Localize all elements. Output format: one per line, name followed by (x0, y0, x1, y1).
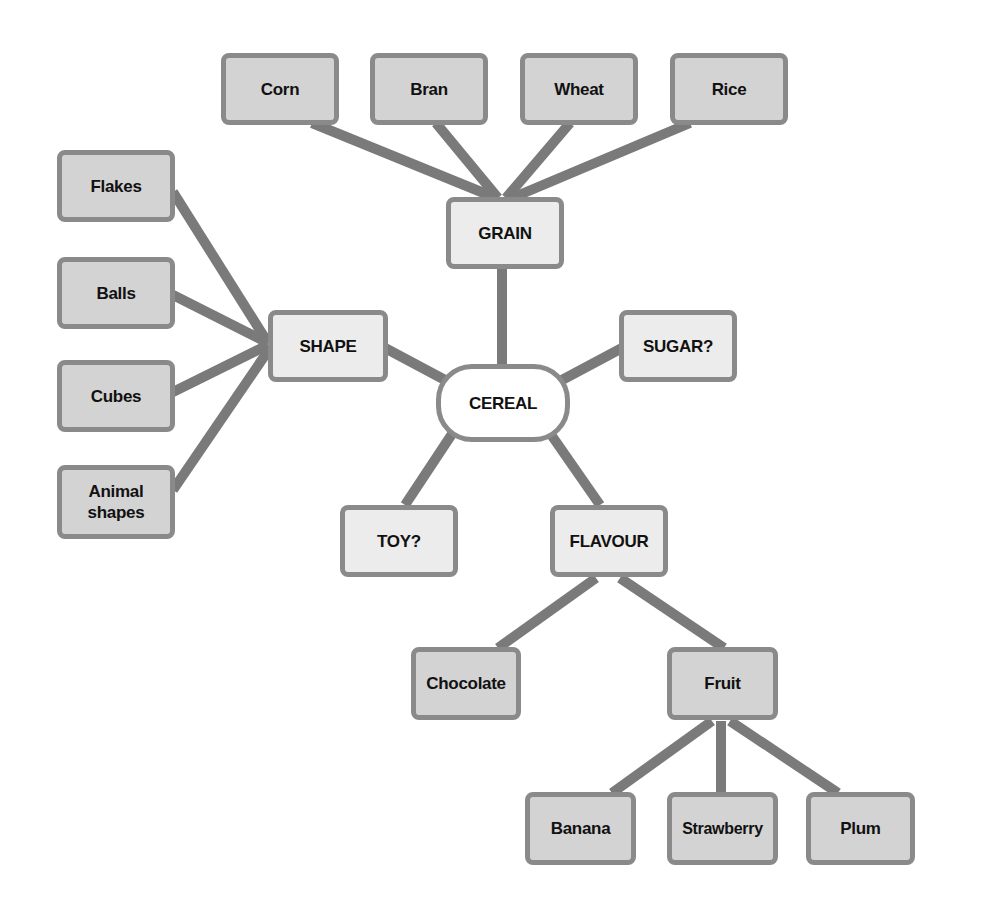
node-label: CEREAL (469, 393, 537, 414)
node-corn: Corn (221, 53, 339, 125)
node-label: Flakes (90, 176, 141, 197)
node-bran: Bran (370, 53, 488, 125)
node-chocolate: Chocolate (411, 647, 521, 720)
node-flavour: FLAVOUR (550, 505, 668, 577)
edge-fruit-banana (612, 721, 712, 793)
node-wheat: Wheat (520, 53, 638, 125)
node-label: Fruit (704, 673, 740, 694)
node-label: GRAIN (478, 223, 531, 244)
edge-fruit-plum (730, 721, 838, 793)
edge-cereal-toy (405, 434, 452, 505)
node-plum: Plum (806, 792, 915, 865)
edge-cereal-shape (385, 348, 445, 380)
node-label: Chocolate (426, 673, 505, 694)
node-rice: Rice (670, 53, 788, 125)
edge-flavour-chocolate (498, 578, 596, 648)
node-label: Bran (410, 79, 448, 100)
node-balls: Balls (57, 257, 175, 329)
edge-cereal-flavour (552, 436, 600, 505)
node-label: Strawberry (682, 818, 763, 839)
connector-lines (0, 0, 995, 909)
node-label: SUGAR? (643, 336, 713, 357)
node-label: Cubes (91, 386, 141, 407)
node-label: Plum (840, 818, 880, 839)
node-label: TOY? (377, 531, 421, 552)
node-label: SHAPE (299, 336, 356, 357)
node-label: Rice (712, 79, 747, 100)
node-cereal-root: CEREAL (436, 364, 570, 442)
node-grain: GRAIN (446, 197, 564, 269)
node-label: FLAVOUR (570, 531, 649, 552)
node-label: Banana (551, 818, 611, 839)
node-animal-shapes: Animal shapes (57, 465, 175, 539)
node-shape: SHAPE (268, 310, 388, 382)
node-flakes: Flakes (57, 150, 175, 222)
node-toy: TOY? (340, 505, 458, 577)
node-sugar: SUGAR? (619, 310, 737, 382)
node-label: Corn (261, 79, 299, 100)
node-banana: Banana (525, 792, 636, 865)
edge-flavour-fruit (620, 578, 724, 648)
node-cubes: Cubes (57, 360, 175, 432)
node-label: Balls (96, 283, 135, 304)
node-fruit: Fruit (667, 647, 778, 720)
node-label: Wheat (554, 79, 604, 100)
node-label: Animal shapes (81, 481, 151, 523)
node-strawberry: Strawberry (667, 792, 778, 865)
edge-cereal-sugar (562, 348, 622, 380)
